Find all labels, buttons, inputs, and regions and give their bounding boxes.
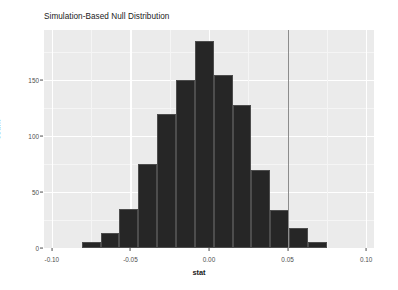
- y-tick-label: 50: [32, 189, 39, 196]
- x-tick-mark: [287, 248, 288, 251]
- histogram-bar: [119, 209, 138, 248]
- x-axis-label: stat: [0, 268, 398, 277]
- y-axis-label: count: [0, 119, 2, 139]
- histogram-bar: [82, 242, 101, 248]
- gridline-minor-x: [91, 30, 92, 248]
- histogram-bar: [138, 164, 157, 248]
- chart-title: Simulation-Based Null Distribution: [44, 12, 169, 21]
- histogram-bar: [176, 80, 195, 248]
- observed-statistic-line: [288, 30, 289, 248]
- gridline-minor-x: [327, 30, 328, 248]
- histogram-bar: [251, 170, 270, 248]
- plot-panel: [44, 30, 374, 248]
- y-tick-mark: [40, 136, 43, 137]
- y-tick-label: 100: [28, 133, 39, 140]
- histogram-bar: [214, 75, 233, 248]
- y-tick-label: 150: [28, 77, 39, 84]
- histogram-bar: [308, 242, 327, 248]
- histogram-bar: [289, 228, 308, 248]
- y-tick-mark: [40, 80, 43, 81]
- x-tick-mark: [366, 248, 367, 251]
- gridline-major-x: [52, 30, 53, 248]
- y-tick-mark: [40, 248, 43, 249]
- x-tick-mark: [130, 248, 131, 251]
- gridline-major-x: [366, 30, 367, 248]
- x-tick-label: -0.10: [45, 256, 60, 263]
- y-tick-label: 0: [35, 245, 39, 252]
- x-tick-label: 0.10: [360, 256, 372, 263]
- histogram-bar: [270, 210, 289, 248]
- x-tick-label: 0.00: [203, 256, 215, 263]
- x-tick-mark: [209, 248, 210, 251]
- histogram-bar: [233, 105, 252, 248]
- x-tick-label: 0.05: [281, 256, 293, 263]
- y-tick-mark: [40, 192, 43, 193]
- histogram-bar: [195, 41, 214, 248]
- histogram-bar: [101, 233, 120, 248]
- x-tick-mark: [51, 248, 52, 251]
- chart-figure: Simulation-Based Null Distribution 05010…: [0, 0, 398, 290]
- histogram-bar: [157, 114, 176, 248]
- x-tick-label: -0.05: [123, 256, 138, 263]
